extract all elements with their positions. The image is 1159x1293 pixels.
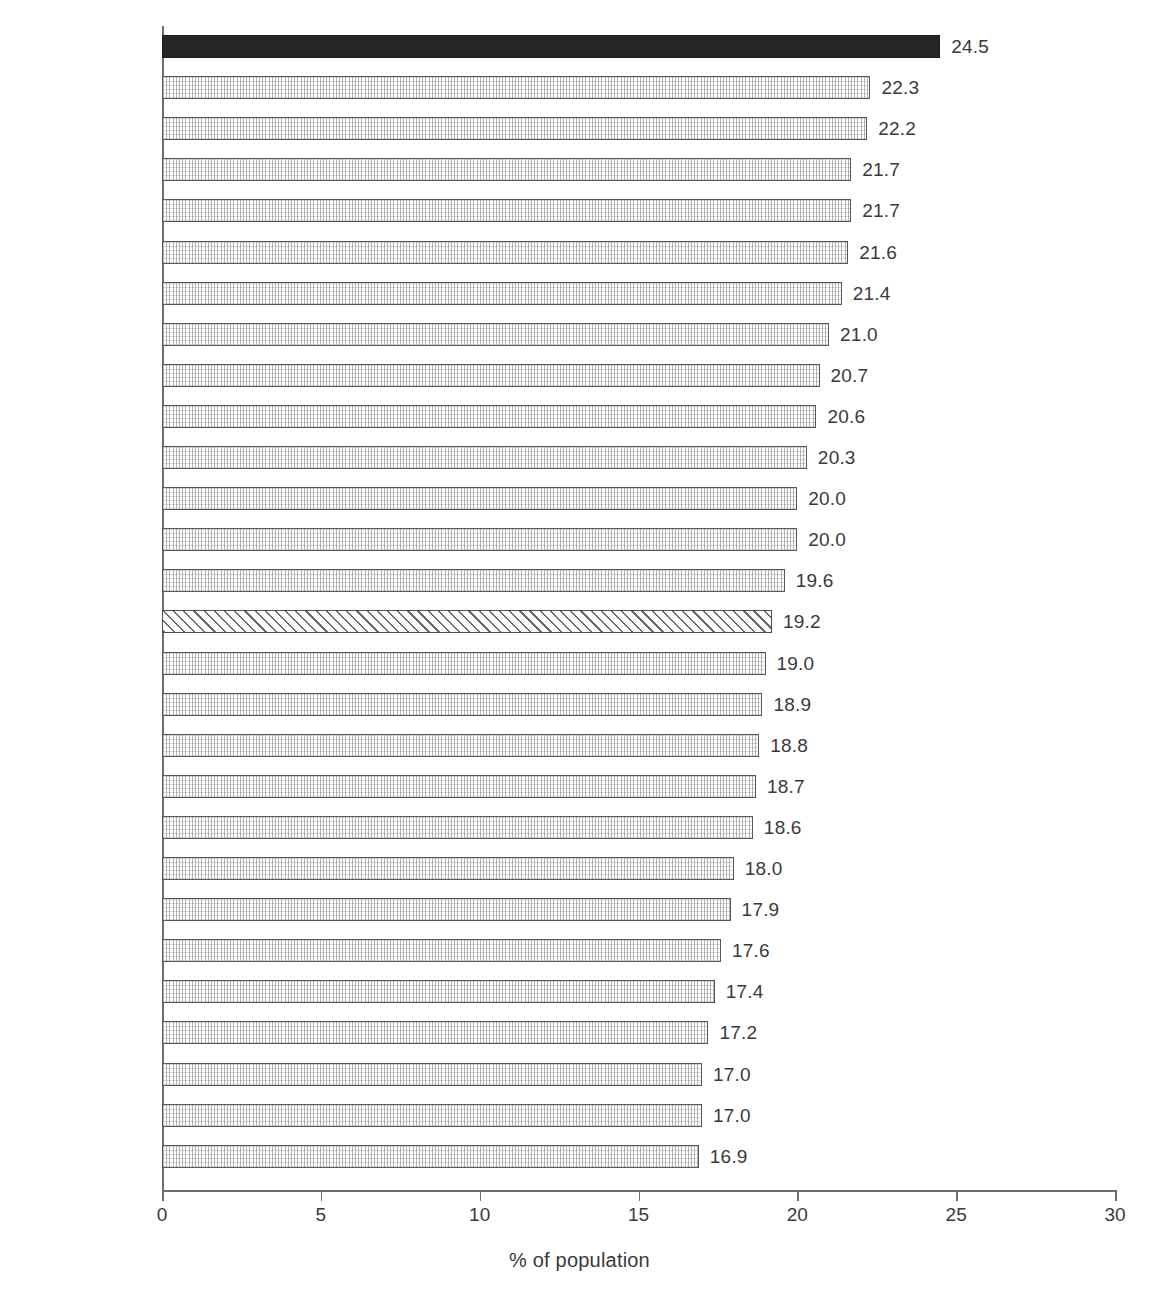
- bar-value-label: 21.4: [853, 282, 891, 305]
- bar-czech-republic: [162, 898, 731, 921]
- bar-denmark: [162, 117, 867, 140]
- bar-row: Portugal18.6: [162, 807, 1115, 848]
- bar-chart: Ireland24.5France22.3Denmark22.2Luxembou…: [0, 0, 1159, 1293]
- x-tick-10: [480, 1190, 482, 1201]
- bar-value-label: 20.0: [808, 528, 846, 551]
- x-axis-title: % of population: [0, 1249, 1159, 1272]
- bar-row: Sweden21.0: [162, 314, 1115, 355]
- x-tick-25: [956, 1190, 958, 1201]
- bar-value-label: 18.8: [770, 734, 808, 757]
- bar-value-label: 17.4: [726, 980, 764, 1003]
- bar-value-label: 19.6: [796, 569, 834, 592]
- bar-value-label: 24.5: [951, 35, 989, 58]
- bar-value-label: 17.6: [732, 939, 770, 962]
- x-tick-label-30: 30: [1075, 1204, 1155, 1226]
- bar-row: Cyprus21.7: [162, 190, 1115, 231]
- bar-greece: [162, 980, 715, 1003]
- bar-row: Italy17.0: [162, 1054, 1115, 1095]
- bar-value-label: 18.7: [767, 775, 805, 798]
- bar-finland: [162, 364, 820, 387]
- bar-row: Lithuania20.0: [162, 478, 1115, 519]
- bar-row: United Kingdom21.4: [162, 273, 1115, 314]
- bar-value-label: 17.2: [719, 1021, 757, 1044]
- bar-value-label: 20.3: [818, 446, 856, 469]
- bar-lithuania: [162, 487, 797, 510]
- bar-row: Spain17.6: [162, 930, 1115, 971]
- bar-row: Germany17.0: [162, 1095, 1115, 1136]
- bar-value-label: 18.9: [773, 693, 811, 716]
- bar-malta: [162, 446, 807, 469]
- bar-value-label: 20.6: [827, 405, 865, 428]
- plot-area: Ireland24.5France22.3Denmark22.2Luxembou…: [162, 26, 1115, 1190]
- bar-slovenia: [162, 1021, 708, 1044]
- bar-netherlands: [162, 241, 848, 264]
- bar-value-label: 19.0: [777, 652, 815, 675]
- bar-row: Romania18.9: [162, 684, 1115, 725]
- bar-cyprus: [162, 199, 851, 222]
- x-tick-5: [321, 1190, 323, 1201]
- bar-italy: [162, 1063, 702, 1086]
- bar-hungary: [162, 775, 756, 798]
- bar-value-label: 21.7: [862, 199, 900, 222]
- bar-row: Belgium20.6: [162, 396, 1115, 437]
- bar-row: Slovakia20.0: [162, 519, 1115, 560]
- bar-value-label: 21.7: [862, 158, 900, 181]
- bar-value-label: 21.6: [859, 241, 897, 264]
- bar-poland: [162, 569, 785, 592]
- x-tick-label-0: 0: [122, 1204, 202, 1226]
- bar-value-label: 21.0: [840, 323, 878, 346]
- x-tick-label-5: 5: [281, 1204, 361, 1226]
- x-tick-label-10: 10: [440, 1204, 520, 1226]
- bar-value-label: 16.9: [710, 1145, 748, 1168]
- bar-row: Greece17.4: [162, 971, 1115, 1012]
- bar-latvia: [162, 857, 734, 880]
- bar-row: Hungary18.7: [162, 766, 1115, 807]
- bar-row: Poland19.6: [162, 560, 1115, 601]
- bar-luxembourg: [162, 158, 851, 181]
- bar-bulgaria: [162, 1145, 699, 1168]
- bar-eu-27: [162, 610, 772, 633]
- x-tick-label-20: 20: [757, 1204, 837, 1226]
- x-tick-15: [639, 1190, 641, 1201]
- bar-row: Finland20.7: [162, 355, 1115, 396]
- bar-value-label: 18.0: [745, 857, 783, 880]
- x-tick-0: [162, 1190, 164, 1201]
- bar-row: Austria19.0: [162, 643, 1115, 684]
- bar-value-label: 18.6: [764, 816, 802, 839]
- bar-belgium: [162, 405, 816, 428]
- bar-row: Estonia18.8: [162, 725, 1115, 766]
- bar-value-label: 20.0: [808, 487, 846, 510]
- bar-slovakia: [162, 528, 797, 551]
- bar-austria: [162, 652, 766, 675]
- bar-row: Latvia18.0: [162, 848, 1115, 889]
- bar-value-label: 17.9: [742, 898, 780, 921]
- bar-united-kingdom: [162, 282, 842, 305]
- bar-value-label: 19.2: [783, 610, 821, 633]
- x-tick-30: [1115, 1190, 1117, 1201]
- x-tick-label-15: 15: [599, 1204, 679, 1226]
- bar-row: Malta20.3: [162, 437, 1115, 478]
- bar-row: EU-2719.2: [162, 601, 1115, 642]
- bar-value-label: 17.0: [713, 1104, 751, 1127]
- bar-row: Luxembourg21.7: [162, 149, 1115, 190]
- bar-row: France22.3: [162, 67, 1115, 108]
- bar-row: Slovenia17.2: [162, 1012, 1115, 1053]
- bar-row: Denmark22.2: [162, 108, 1115, 149]
- bar-value-label: 20.7: [831, 364, 869, 387]
- bar-estonia: [162, 734, 759, 757]
- bar-spain: [162, 939, 721, 962]
- x-tick-label-25: 25: [916, 1204, 996, 1226]
- bar-value-label: 17.0: [713, 1063, 751, 1086]
- x-tick-20: [797, 1190, 799, 1201]
- bar-row: Ireland24.5: [162, 26, 1115, 67]
- bar-romania: [162, 693, 762, 716]
- bar-sweden: [162, 323, 829, 346]
- bar-value-label: 22.2: [878, 117, 916, 140]
- bar-france: [162, 76, 870, 99]
- bar-value-label: 22.3: [881, 76, 919, 99]
- bar-row: Netherlands21.6: [162, 232, 1115, 273]
- bar-ireland: [162, 35, 940, 58]
- bar-portugal: [162, 816, 753, 839]
- bar-row: Czech Republic17.9: [162, 889, 1115, 930]
- bar-row: Bulgaria16.9: [162, 1136, 1115, 1177]
